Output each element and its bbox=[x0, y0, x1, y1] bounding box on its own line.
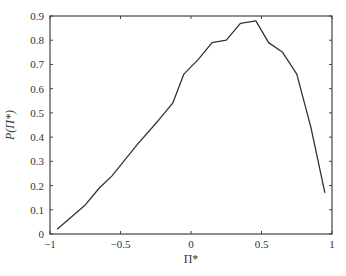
y-tick-label: 0.9 bbox=[30, 10, 44, 22]
line-chart: 00.10.20.30.40.50.60.70.80.9 −1−0.500.51… bbox=[0, 0, 346, 276]
y-tick-label: 0.2 bbox=[30, 180, 44, 192]
y-tick-label: 0.3 bbox=[30, 155, 44, 167]
plot-border bbox=[50, 16, 332, 234]
plot-frame bbox=[50, 16, 332, 234]
y-axis-label: P(Π*) bbox=[3, 110, 17, 141]
x-tick-label: 0 bbox=[188, 238, 194, 250]
x-tick-label: −0.5 bbox=[111, 238, 131, 250]
y-tick-label: 0.7 bbox=[30, 58, 44, 70]
y-tick-label: 0.4 bbox=[30, 131, 44, 143]
y-tick-label: 0.6 bbox=[30, 83, 44, 95]
data-series bbox=[57, 21, 325, 229]
series-line bbox=[57, 21, 325, 229]
y-tick-label: 0.8 bbox=[30, 34, 44, 46]
y-tick-label: 0.5 bbox=[30, 107, 44, 119]
y-tick-label: 0.1 bbox=[30, 204, 44, 216]
x-axis-label: Π* bbox=[184, 252, 199, 266]
y-axis-ticks: 00.10.20.30.40.50.60.70.80.9 bbox=[30, 10, 332, 240]
x-axis-ticks: −1−0.500.51 bbox=[44, 16, 335, 250]
x-tick-label: 1 bbox=[329, 238, 335, 250]
chart: 00.10.20.30.40.50.60.70.80.9 −1−0.500.51… bbox=[0, 0, 346, 276]
x-tick-label: −1 bbox=[44, 238, 56, 250]
x-tick-label: 0.5 bbox=[255, 238, 269, 250]
